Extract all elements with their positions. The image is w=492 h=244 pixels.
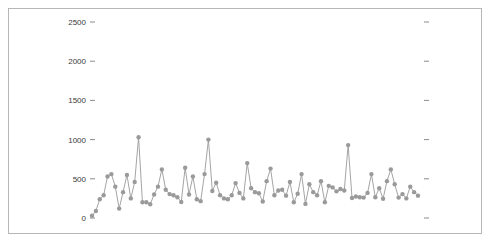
data-point — [412, 190, 416, 194]
data-point — [261, 199, 265, 203]
data-point — [148, 202, 152, 206]
chart-figure: 05001000150020002500 — [0, 0, 492, 244]
data-point — [187, 192, 191, 196]
data-point — [136, 135, 140, 139]
data-point — [311, 190, 315, 194]
data-point — [132, 180, 136, 184]
data-point — [156, 184, 160, 188]
data-point — [183, 166, 187, 170]
data-point — [323, 200, 327, 204]
data-point — [377, 186, 381, 190]
data-point — [369, 172, 373, 176]
data-point — [109, 172, 113, 176]
data-point — [342, 188, 346, 192]
data-point — [105, 174, 109, 178]
data-point — [206, 137, 210, 141]
data-point — [295, 192, 299, 196]
data-point — [226, 197, 230, 201]
data-point — [210, 189, 214, 193]
data-point — [214, 181, 218, 185]
data-point — [327, 184, 331, 188]
data-point — [202, 172, 206, 176]
y-axis-tick-marks-left — [90, 22, 95, 218]
data-point — [373, 195, 377, 199]
data-point — [140, 200, 144, 204]
data-point — [241, 196, 245, 200]
data-point — [276, 188, 280, 192]
scatter-line-chart: 05001000150020002500 — [0, 0, 492, 244]
y-axis-tick-label: 500 — [73, 175, 87, 184]
plot-area: 05001000150020002500 — [0, 0, 492, 244]
data-point — [280, 188, 284, 192]
y-axis-tick-label: 0 — [82, 214, 87, 223]
data-point — [338, 187, 342, 191]
data-point — [288, 180, 292, 184]
y-axis-tick-label: 1000 — [68, 136, 86, 145]
y-axis-tick-label: 1500 — [68, 96, 86, 105]
data-point — [303, 202, 307, 206]
data-point — [408, 184, 412, 188]
data-point — [98, 197, 102, 201]
data-point — [264, 179, 268, 183]
data-point — [393, 182, 397, 186]
data-point — [167, 192, 171, 196]
data-point — [218, 193, 222, 197]
data-point — [334, 189, 338, 193]
y-axis-tick-labels: 05001000150020002500 — [68, 18, 86, 223]
data-point — [144, 200, 148, 204]
data-point — [365, 191, 369, 195]
data-point — [160, 167, 164, 171]
data-point — [113, 184, 117, 188]
data-point — [164, 188, 168, 192]
y-axis-tick-label: 2000 — [68, 57, 86, 66]
data-point — [233, 181, 237, 185]
data-point — [272, 193, 276, 197]
data-point — [346, 143, 350, 147]
y-axis-tick-marks-right — [424, 22, 429, 218]
data-point — [195, 197, 199, 201]
data-point — [284, 193, 288, 197]
data-point — [400, 192, 404, 196]
data-point — [94, 209, 98, 213]
data-point — [121, 190, 125, 194]
data-point — [175, 195, 179, 199]
data-point — [152, 192, 156, 196]
data-point — [253, 190, 257, 194]
data-point — [404, 196, 408, 200]
data-point — [230, 193, 234, 197]
data-point — [396, 195, 400, 199]
data-point — [385, 179, 389, 183]
data-point — [416, 193, 420, 197]
data-point — [292, 200, 296, 204]
data-point — [101, 193, 105, 197]
data-point — [307, 182, 311, 186]
data-point — [129, 196, 133, 200]
data-point — [330, 185, 334, 189]
data-point — [358, 195, 362, 199]
data-point — [315, 193, 319, 197]
data-point — [117, 206, 121, 210]
series-line — [92, 137, 418, 215]
data-point — [257, 191, 261, 195]
data-point — [222, 196, 226, 200]
data-point — [179, 200, 183, 204]
data-point — [268, 166, 272, 170]
data-point — [198, 199, 202, 203]
data-point — [389, 167, 393, 171]
data-point — [350, 196, 354, 200]
y-axis-tick-label: 2500 — [68, 18, 86, 27]
data-point — [237, 191, 241, 195]
data-point — [299, 172, 303, 176]
data-point — [354, 194, 358, 198]
data-point — [319, 179, 323, 183]
data-point — [191, 174, 195, 178]
data-point — [249, 186, 253, 190]
data-point — [90, 213, 94, 217]
data-point — [381, 197, 385, 201]
data-point — [171, 193, 175, 197]
data-point — [361, 195, 365, 199]
data-point — [245, 161, 249, 165]
data-point — [125, 173, 129, 177]
